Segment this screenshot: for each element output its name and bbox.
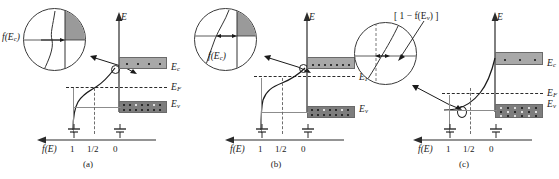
tick-1-a: 1 [70,145,75,154]
inset-label-a: f(Ec) [2,33,20,43]
ground-symbol-f1-c [441,124,459,140]
fermi-function-curve-b [250,62,310,132]
panel-b: f(Ec) E Ec EF [186,0,372,179]
ground-symbol-f1-b [253,124,271,140]
tick-1-b: 1 [258,145,263,154]
fermi-function-curve-c [432,57,502,117]
ground-symbol-f1-a [65,124,83,140]
ground-symbol-f0-a [111,124,129,140]
fermi-function-curve-a [62,62,122,132]
level-label-ev-a: Ev [171,100,180,110]
ground-symbol-f0-c [487,124,505,140]
distribution-axis-label-c: f(E) [418,145,433,155]
inset-arrow-b [195,9,257,71]
tick-0-c: 0 [489,145,494,154]
valence-band-a [119,101,167,113]
level-label-ev-c: Ev [547,100,556,110]
panel-caption-b: (b) [256,159,296,169]
tick-1-c: 1 [446,145,451,154]
guide-vertical-fhalf-b [282,78,283,134]
level-label-ec-c: Ec [547,59,556,69]
valence-band-c [495,104,543,118]
figure-root: f(Ec) E Ec [0,0,559,179]
panel-a: f(Ec) E Ec [0,0,186,179]
guide-horizontal-c [449,110,497,111]
level-label-ef-c: EF [547,89,557,99]
panel-c: [ 1 − f(Ev) ] E Ec EF [372,0,558,179]
level-label-ef-a: EF [171,83,181,93]
inset-label-c: [ 1 − f(Ev) ] [394,12,438,22]
valence-band-b [307,106,355,118]
guide-vertical-fhalf-a [94,88,95,134]
energy-axis-label-c: E [497,13,503,23]
guide-horizontal-b [261,112,309,113]
panel-caption-c: (c) [444,159,484,169]
energy-axis-label-b: E [309,13,315,23]
energy-axis-label-a: E [121,13,127,23]
tick-0-a: 0 [113,145,118,154]
conduction-band-a [119,57,167,69]
tick-0-b: 0 [301,145,306,154]
conduction-band-b [307,57,355,69]
level-label-ec-a: Ec [171,63,180,73]
tick-half-b: 1/2 [275,145,287,154]
distribution-axis-label-b: f(E) [230,145,245,155]
level-label-ev-b: Ev [359,105,368,115]
conduction-band-c [495,52,543,65]
tick-half-a: 1/2 [87,145,99,154]
ground-symbol-f0-b [299,124,317,140]
guide-vertical-fhalf-c [470,88,471,134]
distribution-axis-label-a: f(E) [42,145,57,155]
tick-half-c: 1/2 [463,145,475,154]
panel-caption-a: (a) [68,159,108,169]
inset-label-b: f(Ec) [208,52,226,62]
guide-horizontal-a [73,107,121,108]
